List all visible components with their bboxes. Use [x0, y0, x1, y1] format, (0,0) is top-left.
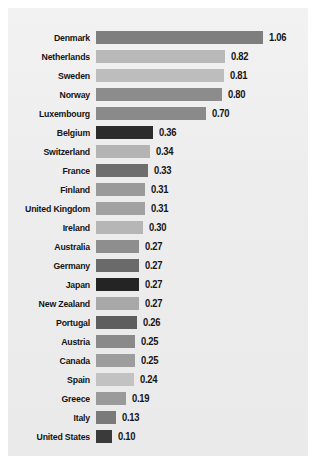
bar-chart-plot-area: Denmark1.06Netherlands0.82Sweden0.81Norw…: [0, 0, 316, 476]
category-label: New Zealand: [11, 294, 90, 313]
category-label: Switzerland: [11, 142, 90, 161]
category-label: Denmark: [11, 28, 90, 47]
bar: [96, 126, 153, 139]
category-label: Japan: [11, 275, 90, 294]
category-label: Italy: [11, 408, 90, 427]
bar-row: Japan0.27: [0, 275, 316, 294]
bar-row: Germany0.27: [0, 256, 316, 275]
bar-row: Greece0.19: [0, 389, 316, 408]
bar-row: Australia0.27: [0, 237, 316, 256]
bar-row: Switzerland0.34: [0, 142, 316, 161]
category-label: Sweden: [11, 66, 90, 85]
bar-row: United Kingdom0.31: [0, 199, 316, 218]
category-label: Belgium: [11, 123, 90, 142]
category-label: Canada: [11, 351, 90, 370]
value-label: 0.27: [145, 294, 162, 313]
bar: [96, 164, 148, 177]
bar: [96, 31, 263, 44]
chart-figure: Denmark1.06Netherlands0.82Sweden0.81Norw…: [0, 0, 316, 476]
bar: [96, 373, 134, 386]
value-label: 0.80: [228, 85, 245, 104]
bar-row: Luxembourg0.70: [0, 104, 316, 123]
category-label: Norway: [11, 85, 90, 104]
bar: [96, 297, 139, 310]
category-label: Germany: [11, 256, 90, 275]
value-label: 0.27: [145, 237, 162, 256]
value-label: 0.31: [151, 199, 168, 218]
value-label: 0.34: [156, 142, 173, 161]
value-label: 0.25: [141, 332, 158, 351]
value-label: 0.30: [149, 218, 166, 237]
category-label: Australia: [11, 237, 90, 256]
category-label: Austria: [11, 332, 90, 351]
bar-row: Austria0.25: [0, 332, 316, 351]
value-label: 0.24: [140, 370, 157, 389]
value-label: 0.13: [122, 408, 139, 427]
value-label: 0.82: [231, 47, 248, 66]
value-label: 0.33: [154, 161, 171, 180]
bar-row: Ireland0.30: [0, 218, 316, 237]
category-label: Portugal: [11, 313, 90, 332]
bar: [96, 240, 139, 253]
bar: [96, 335, 135, 348]
category-label: Spain: [11, 370, 90, 389]
bar: [96, 411, 116, 424]
value-label: 0.10: [118, 427, 135, 446]
bar-row: Finland0.31: [0, 180, 316, 199]
bar-row: New Zealand0.27: [0, 294, 316, 313]
value-label: 0.70: [212, 104, 229, 123]
bar-row: Spain0.24: [0, 370, 316, 389]
value-label: 0.81: [230, 66, 247, 85]
bar-row: Belgium0.36: [0, 123, 316, 142]
bar: [96, 259, 139, 272]
category-label: Netherlands: [11, 47, 90, 66]
bar: [96, 392, 126, 405]
bar: [96, 316, 137, 329]
bar-row: France0.33: [0, 161, 316, 180]
bar: [96, 202, 145, 215]
category-label: Greece: [11, 389, 90, 408]
bar: [96, 278, 139, 291]
bar-row: Denmark1.06: [0, 28, 316, 47]
category-label: United Kingdom: [11, 199, 90, 218]
bar: [96, 430, 112, 443]
category-label: Luxembourg: [11, 104, 90, 123]
bar: [96, 354, 135, 367]
bar: [96, 107, 206, 120]
bar-row: Italy0.13: [0, 408, 316, 427]
bar-row: United States0.10: [0, 427, 316, 446]
category-label: France: [11, 161, 90, 180]
bar: [96, 50, 225, 63]
bar: [96, 88, 222, 101]
bar-row: Portugal0.26: [0, 313, 316, 332]
bar-row: Sweden0.81: [0, 66, 316, 85]
bar-row: Netherlands0.82: [0, 47, 316, 66]
category-label: United States: [11, 427, 90, 446]
value-label: 0.26: [143, 313, 160, 332]
bar-row: Canada0.25: [0, 351, 316, 370]
value-label: 1.06: [269, 28, 286, 47]
bar: [96, 221, 143, 234]
bar: [96, 145, 150, 158]
bar: [96, 183, 145, 196]
value-label: 0.19: [132, 389, 149, 408]
value-label: 0.36: [159, 123, 176, 142]
category-label: Ireland: [11, 218, 90, 237]
bar: [96, 69, 224, 82]
category-label: Finland: [11, 180, 90, 199]
value-label: 0.31: [151, 180, 168, 199]
value-label: 0.27: [145, 275, 162, 294]
value-label: 0.27: [145, 256, 162, 275]
value-label: 0.25: [141, 351, 158, 370]
bar-row: Norway0.80: [0, 85, 316, 104]
